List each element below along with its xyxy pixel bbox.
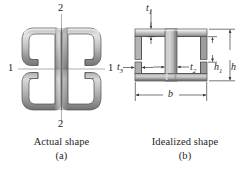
caption-b-title: Idealized shape [123, 136, 247, 147]
axis-label-1-left: 1 [8, 63, 13, 74]
figure-container: 2 2 1 1 [0, 0, 247, 175]
axis-label-1-right: 1 [108, 63, 113, 74]
caption-a-title: Actual shape [0, 136, 123, 147]
lower-left-lip [135, 62, 142, 74]
panel-b-idealized-shape: t1 t2 t3 h1 h b [123, 0, 247, 132]
axis-label-2-top: 2 [58, 3, 63, 14]
actual-shape-drawing [0, 0, 123, 132]
caption-a-sub: (a) [0, 150, 123, 161]
dim-label-t3: t3 [117, 62, 123, 75]
caption-b-sub: (b) [123, 150, 247, 161]
lower-left-channel [22, 69, 61, 110]
lower-right-lip [201, 62, 208, 74]
dim-h1 [208, 37, 217, 63]
dim-label-t2: t2 [190, 62, 196, 75]
upper-left-lip [135, 37, 142, 60]
dim-label-h: h [231, 62, 236, 72]
web-seam [55, 28, 68, 110]
dim-label-b: b [168, 89, 173, 99]
idealized-shape-drawing [123, 0, 247, 132]
upper-right-lip [201, 37, 208, 60]
panel-a-actual-shape: 2 2 1 1 [0, 0, 123, 132]
dim-label-h1: h1 [214, 62, 222, 75]
dim-label-t1: t1 [146, 3, 152, 16]
lower-right-channel [63, 69, 102, 110]
axis-label-2-bottom: 2 [58, 119, 63, 130]
upper-left-channel [22, 28, 61, 69]
upper-right-channel [63, 28, 102, 69]
